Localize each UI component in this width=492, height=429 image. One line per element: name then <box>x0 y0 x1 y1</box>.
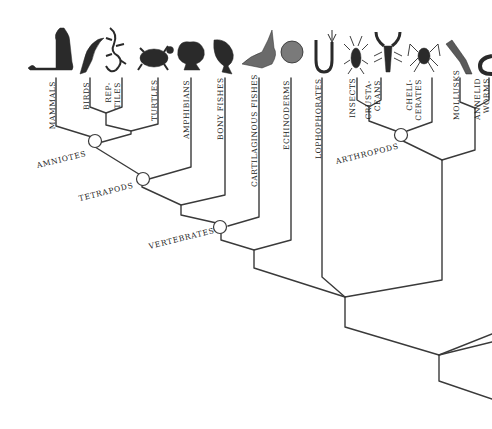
branch-deep-4 <box>439 355 492 399</box>
taxon-label-echinoderms: ECHINODERMS <box>282 80 291 150</box>
branch-protostomes <box>345 160 442 297</box>
lophophorate-icon <box>316 30 336 72</box>
node-vertebrates <box>214 221 227 234</box>
sand-dollar-icon <box>281 41 303 63</box>
insect-icon <box>344 36 368 74</box>
taxon-label-crustaceans-line1: CRUSTA- <box>364 80 373 120</box>
taxon-label-crustaceans: CRUSTA- CEANS <box>364 80 382 120</box>
squid-icon <box>446 40 472 74</box>
node-amniotes <box>89 135 102 148</box>
taxon-label-annelid-worms-line1: ANNELID <box>473 78 482 120</box>
taxon-label-chelicerates-line1: CHELI- <box>405 79 414 121</box>
shark-icon <box>242 30 276 68</box>
taxon-label-birds: BIRDS <box>82 82 91 110</box>
phylogenetic-tree <box>0 0 492 429</box>
taxon-label-cartilaginous-fishes: CARTILAGINOUS FISHES <box>250 79 259 187</box>
taxon-label-crustaceans-line2: CEANS <box>373 80 382 120</box>
taxon-label-annelid-worms-line2: WORMS <box>482 78 491 120</box>
taxon-label-reptiles-line1: REP- <box>104 82 113 110</box>
lobster-icon <box>374 32 402 72</box>
frog-icon <box>178 42 205 70</box>
branch-vertebrates <box>221 232 254 250</box>
turtle-icon <box>138 46 174 70</box>
taxon-label-mollusks: MOLLUSKS <box>452 76 461 120</box>
branch-echinoderms <box>254 78 345 297</box>
taxon-label-chelicerates: CHELI- CERATES <box>405 79 423 121</box>
taxon-label-turtles: TURTLES <box>150 81 159 121</box>
branch-amniotes <box>95 138 142 176</box>
taxon-label-annelid-worms: ANNELID WORMS <box>473 78 491 120</box>
taxon-label-lophophorates: LOPHOPHORATES <box>314 81 323 159</box>
branch-deep-1 <box>345 297 439 355</box>
spider-icon <box>408 44 440 72</box>
branch-lophophorates <box>322 78 345 297</box>
branch-tetrapods <box>142 183 181 205</box>
taxon-label-bony-fishes: BONY FISHES <box>216 80 225 140</box>
taxon-label-reptiles: REP- TILES <box>104 82 122 110</box>
taxon-label-insects: INSECTS <box>348 78 357 118</box>
lizard-icon <box>106 28 126 71</box>
taxon-label-chelicerates-line2: CERATES <box>414 79 423 121</box>
taxon-label-reptiles-line2: TILES <box>113 82 122 110</box>
node-tetrapods <box>137 173 150 186</box>
bird-icon <box>80 38 104 74</box>
taxon-label-amphibians: AMPHIBIANS <box>182 81 191 139</box>
branch-arthropods <box>401 140 442 160</box>
node-arthropods <box>395 129 408 142</box>
cheetah-icon <box>28 28 73 70</box>
worm-icon <box>480 56 492 74</box>
taxon-label-mammals: MAMMALS <box>48 81 57 135</box>
fish-icon <box>214 40 234 74</box>
